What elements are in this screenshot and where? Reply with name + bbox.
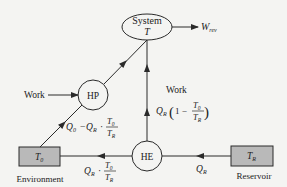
heat-engine-node: HE [132, 141, 162, 171]
svg-text:−: − [80, 122, 85, 132]
svg-text:): ) [204, 104, 209, 121]
reservoir-node: TR Reservoir [231, 146, 273, 181]
svg-text:TR: TR [105, 172, 114, 183]
env-to-hp-arrow [40, 105, 82, 147]
heat-pump-node: HP [78, 80, 108, 110]
svg-text:TR: TR [193, 112, 202, 123]
system-temp: T [144, 26, 151, 37]
env-to-hp-label: Q0 − QR · T0 TR [66, 116, 118, 139]
svg-text:Work: Work [166, 85, 187, 95]
hp-to-system-arrow [104, 40, 147, 84]
system-node: System T [122, 14, 172, 40]
svg-text:T0: T0 [105, 160, 113, 171]
he-to-env-arrow [60, 153, 132, 159]
environment-node: T0 Environment [17, 147, 64, 184]
svg-text:·: · [98, 166, 101, 176]
svg-text:QR: QR [86, 122, 97, 133]
he-to-system-arrow [144, 40, 150, 141]
work-hp-label: Work [24, 90, 45, 100]
he-work-label: Work QR ( 1 − T0 TR ) [156, 85, 209, 123]
svg-text:Q0: Q0 [66, 122, 76, 133]
thermo-diagram: System T Wrev HP Work Work QR ( 1 − T0 T… [0, 0, 287, 187]
hp-label: HP [87, 91, 99, 101]
svg-text:QR: QR [156, 106, 167, 117]
svg-text:QR: QR [84, 166, 95, 177]
work-into-hp-arrow: Work [24, 90, 78, 100]
svg-text:·: · [100, 122, 103, 132]
qr-label: QR [196, 164, 207, 175]
reservoir-caption: Reservoir [237, 171, 272, 181]
system-label: System [132, 15, 162, 26]
svg-text:TR: TR [107, 128, 116, 139]
res-to-he-arrow: QR [162, 153, 231, 175]
svg-text:T0: T0 [107, 116, 115, 127]
svg-text:(: ( [169, 104, 174, 121]
he-label: HE [141, 152, 154, 162]
he-to-env-label: QR · T0 TR [84, 160, 116, 183]
w-rev-arrow: Wrev [172, 21, 217, 33]
w-rev-label: Wrev [201, 21, 217, 33]
svg-text:T0: T0 [193, 100, 201, 111]
environment-caption: Environment [17, 174, 64, 184]
svg-text:1 −: 1 − [175, 106, 187, 116]
